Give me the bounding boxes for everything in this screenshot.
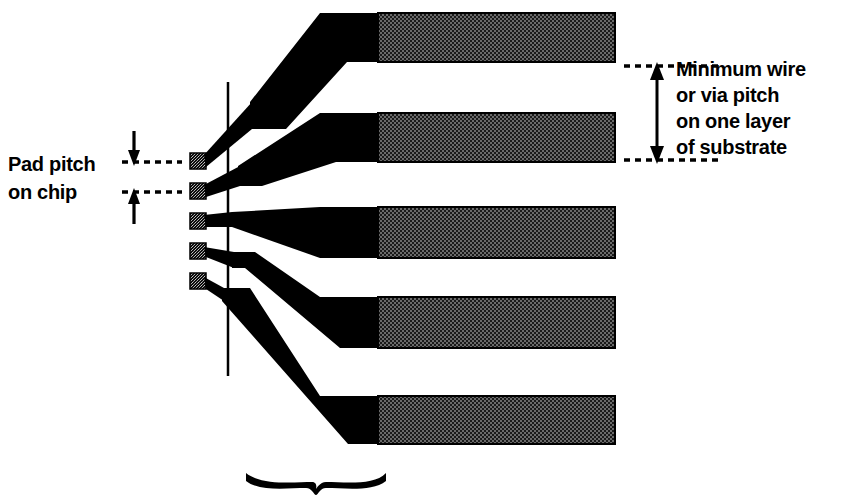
- substrate-wire-2: [238, 113, 615, 186]
- substrate-wire-3: [232, 207, 615, 258]
- minimum-wire-pitch-label: Minimum wire or via pitch on one layer o…: [676, 56, 806, 160]
- min-pitch-label-line-2: or via pitch: [676, 82, 806, 108]
- pad-pitch-label-line-2: on chip: [8, 178, 95, 206]
- substrate-wire-1: [250, 13, 615, 129]
- pad-pitch-label-line-1: Pad pitch: [8, 150, 95, 178]
- diagram-canvas: Pad pitch on chip Minimum wire or via pi…: [0, 0, 857, 498]
- chip-pad-2: [190, 183, 206, 199]
- min-pitch-label-line-4: of substrate: [676, 134, 806, 160]
- chip-pad-1: [190, 153, 206, 169]
- min-pitch-label-line-1: Minimum wire: [676, 56, 806, 82]
- min-pitch-label-line-3: on one layer: [676, 108, 806, 134]
- chip-pad-3: [190, 213, 206, 229]
- substrate-wire-4: [232, 252, 615, 348]
- chip-pad-5: [190, 273, 206, 289]
- chip-pad-4: [190, 243, 206, 259]
- pad-pitch-dimension: [122, 131, 182, 224]
- substrate-brace: [246, 473, 386, 495]
- pad-pitch-label: Pad pitch on chip: [8, 150, 95, 206]
